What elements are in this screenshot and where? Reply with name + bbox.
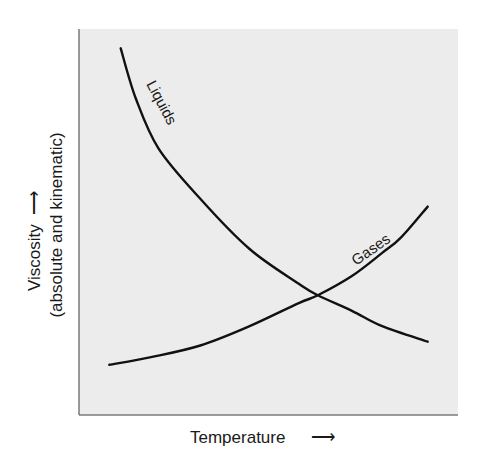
x-axis-arrow-icon: ⟶ (311, 428, 335, 447)
y-axis-label: Viscosity (25, 224, 44, 291)
y-axis-sublabel: (absolute and kinematic) (47, 132, 66, 317)
x-axis-title: Temperature ⟶ (190, 428, 335, 447)
plot-area (79, 29, 458, 415)
y-axis-title: Viscosity ⟶ (absolute and kinematic) (25, 132, 66, 317)
viscosity-temperature-chart: Liquids Gases Temperature ⟶ Viscosity ⟶ … (0, 0, 483, 463)
y-axis-arrow-icon: ⟶ (25, 191, 44, 215)
x-axis-label: Temperature (190, 428, 285, 447)
